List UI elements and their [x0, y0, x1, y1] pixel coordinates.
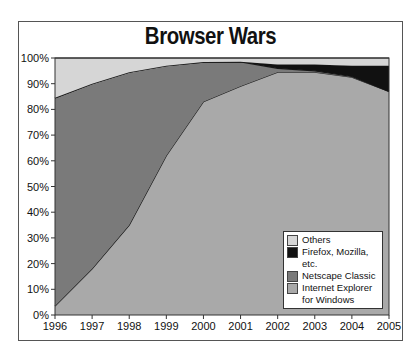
y-tick-label: 100%: [21, 52, 49, 64]
x-tick-label: 1997: [80, 320, 104, 332]
legend-item-firefox: Firefox, Mozilla, etc.: [287, 246, 379, 270]
x-tick-label: 2003: [303, 320, 327, 332]
y-tick-label: 40%: [27, 206, 49, 218]
legend-label: Firefox, Mozilla, etc.: [302, 246, 379, 270]
legend-label: Internet Explorer for Windows: [302, 282, 379, 306]
legend-swatch-others: [287, 235, 298, 246]
legend-label: Netscape Classic: [302, 270, 375, 282]
y-tick-label: 90%: [27, 78, 49, 90]
y-tick-label: 60%: [27, 155, 49, 167]
legend-swatch-netscape: [287, 271, 298, 282]
y-tick-label: 80%: [27, 103, 49, 115]
x-tick-label: 2001: [228, 320, 252, 332]
legend-label: Others: [302, 234, 331, 246]
legend-item-ie: Internet Explorer for Windows: [287, 282, 379, 306]
x-tick-label: 2004: [340, 320, 364, 332]
y-tick-label: 70%: [27, 129, 49, 141]
legend-swatch-ie: [287, 283, 298, 294]
x-tick-label: 1998: [117, 320, 141, 332]
legend-item-others: Others: [287, 234, 379, 246]
y-tick-label: 30%: [27, 232, 49, 244]
x-tick-label: 2000: [191, 320, 215, 332]
chart-legend: Others Firefox, Mozilla, etc. Netscape C…: [283, 231, 383, 309]
legend-item-netscape: Netscape Classic: [287, 270, 379, 282]
y-tick-label: 10%: [27, 283, 49, 295]
x-tick-label: 1996: [43, 320, 67, 332]
legend-swatch-firefox: [287, 247, 298, 258]
x-tick-label: 1999: [154, 320, 178, 332]
x-tick-label: 2002: [265, 320, 289, 332]
y-tick-label: 20%: [27, 258, 49, 270]
y-tick-label: 50%: [27, 181, 49, 193]
x-tick-label: 2005: [377, 320, 401, 332]
